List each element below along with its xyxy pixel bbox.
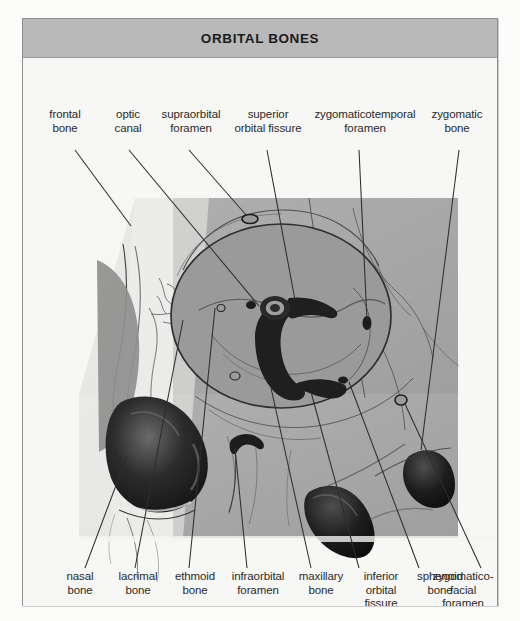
label-zygomaticotemporal-foramen: zygomaticotemporal foramen	[307, 108, 423, 135]
leader-optic-canal	[129, 150, 259, 306]
leader-zygomaticofacial-foramen	[405, 404, 481, 568]
leader-zygomaticotemporal-foramen	[359, 150, 367, 320]
leader-sphenoid-bone	[349, 382, 419, 568]
figure-title-bar: ORBITAL BONES	[23, 19, 497, 58]
leader-ethmoid-bone	[189, 308, 215, 568]
label-lacrimal-bone: lacrimal bone	[107, 570, 169, 597]
leader-inferior-orbital-fissure	[311, 392, 359, 568]
leader-lacrimal-bone	[135, 320, 183, 568]
leader-zygomatic-bone	[421, 150, 459, 450]
label-frontal-bone: frontal bone	[33, 108, 97, 135]
label-superior-orbital-fissure: superior orbital fissure	[225, 108, 311, 135]
label-inferior-orbital-fissure: inferior orbital fissure	[353, 570, 409, 606]
leader-infraorbital-foramen	[235, 448, 247, 568]
label-supraorbital-foramen: supraorbital foramen	[153, 108, 229, 135]
label-zygomaticofacial-foramen: zygomatico- facial foramen	[427, 570, 497, 606]
leader-lines-bottom	[85, 308, 481, 568]
leader-frontal-bone	[75, 150, 131, 226]
label-ethmoid-bone: ethmoid bone	[164, 570, 226, 597]
leader-lines-top	[75, 150, 459, 450]
label-maxillary-bone: maxillary bone	[287, 570, 355, 597]
label-optic-canal: optic canal	[97, 108, 159, 135]
leader-lines	[23, 58, 497, 606]
label-zygomatic-bone: zygomatic bone	[423, 108, 491, 135]
leader-nasal-bone	[85, 456, 127, 568]
leader-superior-orbital-fissure	[267, 150, 295, 300]
label-infraorbital-foramen: infraorbital foramen	[219, 570, 297, 597]
leader-supraorbital-foramen	[189, 150, 247, 216]
figure-title: ORBITAL BONES	[201, 31, 319, 46]
figure-frame: ORBITAL BONES	[22, 18, 498, 606]
leader-maxillary-bone	[271, 388, 311, 568]
label-nasal-bone: nasal bone	[51, 570, 109, 597]
illustration-plate: frontal bone optic canal supraorbital fo…	[23, 58, 497, 606]
